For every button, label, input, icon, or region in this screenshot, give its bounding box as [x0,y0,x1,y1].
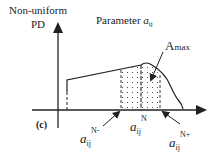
panel-label: (c) [36,119,47,131]
diagram-root: Non-uniform PD Parameter aij Amax (c) ai… [0,0,217,153]
marker-lower-label: aijN- [80,126,100,148]
upper-arrow [163,112,180,124]
marker-upper-label: aijN+ [169,130,191,152]
y-axis-arrow-icon [53,22,63,33]
title: Parameter aij [96,14,153,28]
lower-arrow [103,112,119,126]
marker-center-label: aijN [130,114,147,136]
y-axis-label-line1: Non-uniform [9,4,67,16]
pd-diagram: Non-uniform PD Parameter aij Amax (c) ai… [0,0,217,153]
y-axis-label-line2: PD [31,18,45,30]
amax-label: Amax [165,38,190,53]
x-axis-arrow-icon [196,105,207,115]
